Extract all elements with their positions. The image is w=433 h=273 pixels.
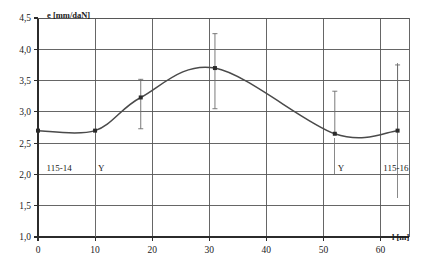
y-tick-label: 1,5 <box>19 201 31 211</box>
x-tick-label: 50 <box>319 245 329 255</box>
x-tick-label: 20 <box>147 245 157 255</box>
x-tick-label: 0 <box>36 245 41 255</box>
x-tick-label: 60 <box>376 245 386 255</box>
y-tick-label: 4,5 <box>19 13 31 23</box>
data-point-marker <box>139 95 143 99</box>
y-tick-label: 2,0 <box>19 170 31 180</box>
y-tick-label: 3,0 <box>19 107 31 117</box>
annotation-label: Y <box>98 163 105 173</box>
y-tick-label: 2,5 <box>19 139 31 149</box>
data-point-marker <box>36 129 40 133</box>
y-axis-title: e [mm/daN] <box>47 10 90 20</box>
annotation-label: 115-14 <box>47 163 73 173</box>
data-point-marker <box>93 129 97 133</box>
data-point-marker <box>213 66 217 70</box>
data-point-marker <box>333 132 337 136</box>
y-tick-label: 4,0 <box>19 45 31 55</box>
x-tick-label: 40 <box>262 245 272 255</box>
y-tick-label: 3,5 <box>19 76 31 86</box>
chart-figure: 1,01,52,02,53,03,54,04,5 0102030405060 1… <box>0 0 433 273</box>
data-point-marker <box>396 129 400 133</box>
elasticity-line-chart: 1,01,52,02,53,03,54,04,5 0102030405060 1… <box>0 0 433 273</box>
x-tick-label: 30 <box>204 245 214 255</box>
annotation-label: Y <box>338 163 345 173</box>
y-tick-label: 1,0 <box>19 232 31 242</box>
x-axis-title: l [m] <box>392 232 409 242</box>
annotation-label: 115-16 <box>383 163 409 173</box>
x-tick-label: 10 <box>90 245 100 255</box>
